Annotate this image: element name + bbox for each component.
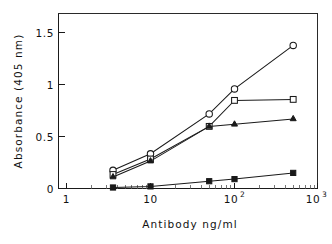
data-point-marker <box>148 184 153 189</box>
chart-container: 1.5 1 0.5 0 <box>0 0 332 244</box>
plot-frame <box>58 14 318 189</box>
data-point-marker <box>232 98 238 104</box>
absorbance-vs-antibody-line-chart: 1.5 1 0.5 0 <box>0 0 332 244</box>
y-axis-title: Absorbance (405 nm) <box>12 34 24 169</box>
data-point-marker <box>291 170 296 175</box>
data-point-marker <box>290 97 296 103</box>
series-filled-square <box>110 170 295 190</box>
series-open-circle <box>110 42 297 173</box>
data-point-marker <box>207 179 212 184</box>
data-point-marker <box>290 115 296 120</box>
x-tick-label-100: 10 <box>224 193 239 205</box>
y-tick-label-1: 1 <box>47 79 54 91</box>
x-tick-exponent-1000: 3 <box>322 190 327 199</box>
x-axis-tick-labels: 1 10 10 2 10 3 <box>63 190 327 205</box>
series-filled-triangle <box>110 115 296 178</box>
data-point-marker <box>232 121 238 126</box>
y-tick-label-0: 0 <box>47 183 54 195</box>
y-axis-tick-labels: 1.5 1 0.5 0 <box>36 27 55 195</box>
x-axis-ticks <box>67 183 318 189</box>
x-axis-title: Antibody ng/ml <box>142 218 238 230</box>
data-point-marker <box>290 42 296 48</box>
y-tick-label-0-5: 0.5 <box>36 131 55 143</box>
data-point-marker <box>232 177 237 182</box>
y-tick-label-1-5: 1.5 <box>36 27 55 39</box>
series-open-square <box>110 97 296 178</box>
data-point-marker <box>231 86 237 92</box>
y-axis-ticks <box>59 33 65 189</box>
x-tick-label-1000: 10 <box>306 193 321 205</box>
x-tick-label-1: 1 <box>63 193 70 205</box>
data-point-marker <box>110 185 115 190</box>
x-tick-exponent-100: 2 <box>240 190 245 199</box>
x-tick-label-10: 10 <box>143 193 158 205</box>
data-point-marker <box>206 111 212 117</box>
